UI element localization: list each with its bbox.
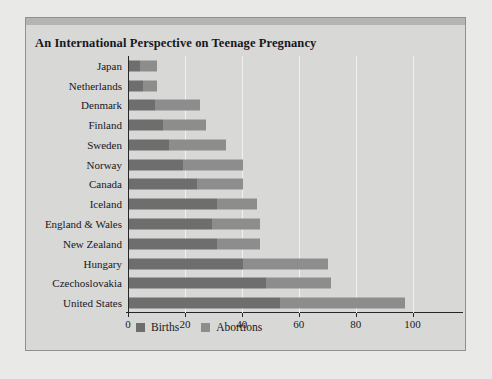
bar-segment-births (129, 199, 217, 210)
chart-legend: BirthsAbortions (136, 321, 262, 333)
x-tick-60 (299, 313, 300, 317)
bar-segment-abortions (140, 60, 157, 71)
bar-segment-abortions (155, 100, 201, 111)
bar-row: Hungary (128, 254, 441, 274)
bar-segment-abortions (266, 278, 331, 289)
card-top-strip (26, 18, 465, 25)
chart-card: An International Perspective on Teenage … (25, 17, 466, 351)
bar-segment-births (129, 258, 243, 269)
legend-label: Births (151, 321, 179, 333)
bar-rows: JapanNetherlandsDenmarkFinlandSwedenNorw… (128, 56, 441, 313)
bar-segment-births (129, 179, 197, 190)
bar-segment-births (129, 60, 140, 71)
bar-segment-births (129, 219, 212, 230)
bar-segment-abortions (243, 258, 328, 269)
bar-segment-births (129, 100, 155, 111)
plot-area: 020406080100 JapanNetherlandsDenmarkFinl… (128, 56, 441, 313)
legend-swatch-icon (201, 323, 210, 332)
category-label: Canada (89, 178, 122, 190)
x-tick-label-60: 60 (293, 318, 304, 330)
bar-segment-abortions (163, 120, 206, 131)
bar-row: United States (128, 293, 441, 313)
bar-segment-abortions (183, 159, 243, 170)
bar-row: Sweden (128, 135, 441, 155)
bar-row: Japan (128, 56, 441, 76)
bar-segment-births (129, 139, 169, 150)
bar-segment-abortions (169, 139, 226, 150)
page-title: An International Perspective on Teenage … (35, 36, 316, 51)
legend-swatch-icon (136, 323, 145, 332)
category-label: Finland (88, 119, 122, 131)
bar-segment-abortions (143, 80, 157, 91)
bar-row: Finland (128, 115, 441, 135)
bar-segment-births (129, 238, 217, 249)
category-label: Denmark (81, 99, 122, 111)
bar-segment-births (129, 120, 163, 131)
category-label: Japan (97, 60, 122, 72)
category-label: Czechoslovakia (52, 277, 122, 289)
bar-row: Denmark (128, 96, 441, 116)
x-tick-label-100: 100 (404, 318, 421, 330)
bar-row: Iceland (128, 194, 441, 214)
x-tick-40 (242, 313, 243, 317)
legend-label: Abortions (216, 321, 262, 333)
bar-row: Czechoslovakia (128, 273, 441, 293)
category-label: England & Wales (45, 218, 122, 230)
x-tick-80 (356, 313, 357, 317)
category-label: Sweden (87, 139, 122, 151)
bar-segment-abortions (280, 298, 405, 309)
bar-segment-births (129, 159, 183, 170)
category-label: Norway (87, 159, 122, 171)
category-label: United States (63, 297, 122, 309)
category-label: Hungary (84, 258, 123, 270)
legend-item: Births (136, 321, 179, 333)
bar-row: New Zealand (128, 234, 441, 254)
bar-segment-births (129, 80, 143, 91)
chart-page: An International Perspective on Teenage … (0, 0, 492, 379)
bar-segment-abortions (197, 179, 243, 190)
x-tick-20 (185, 313, 186, 317)
legend-item: Abortions (201, 321, 262, 333)
bar-row: Norway (128, 155, 441, 175)
x-tick-100 (413, 313, 414, 317)
bar-row: England & Wales (128, 214, 441, 234)
bar-segment-abortions (212, 219, 260, 230)
bar-segment-abortions (217, 199, 257, 210)
category-label: New Zealand (63, 238, 122, 250)
bar-segment-abortions (217, 238, 260, 249)
bar-segment-births (129, 278, 266, 289)
category-label: Netherlands (69, 80, 122, 92)
x-tick-label-80: 80 (350, 318, 361, 330)
bar-segment-births (129, 298, 280, 309)
x-tick-label-0: 0 (125, 318, 131, 330)
category-label: Iceland (90, 198, 122, 210)
bar-row: Canada (128, 175, 441, 195)
x-tick-0 (128, 313, 129, 317)
bar-row: Netherlands (128, 76, 441, 96)
